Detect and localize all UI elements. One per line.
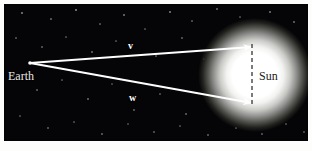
sun-label: Sun (259, 70, 278, 82)
earth-label: Earth (8, 70, 34, 82)
astronomy-diagram-figure: Earth Sun v w (0, 0, 312, 151)
vector-v-label: v (128, 41, 133, 51)
night-sky-plate: Earth Sun v w (4, 4, 308, 141)
label-layer: Earth Sun v w (4, 4, 308, 141)
vector-w-label: w (129, 93, 136, 103)
